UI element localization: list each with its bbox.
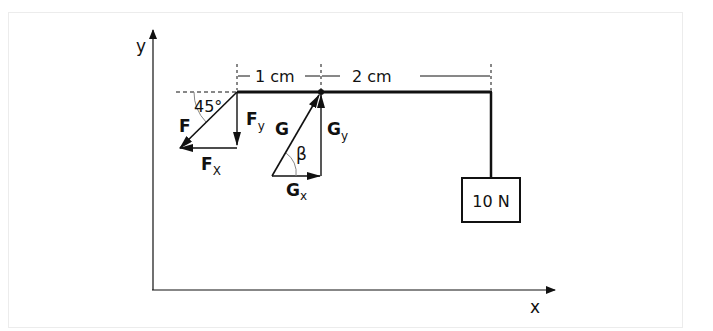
angle-beta-label: β — [296, 144, 307, 164]
dimension-2cm: 2 cm — [352, 67, 392, 86]
f-label: F — [179, 116, 191, 136]
pivot-point — [318, 89, 324, 95]
load-label: 10 N — [472, 192, 509, 211]
gx-label: Gx — [286, 180, 307, 203]
g-label: G — [275, 119, 289, 139]
force-f: 45° F Fy FX — [176, 92, 265, 178]
fx-label: FX — [201, 154, 221, 178]
force-g: β G Gy Gx — [272, 95, 348, 203]
y-axis-label: y — [136, 36, 146, 56]
gy-label: Gy — [327, 119, 348, 143]
angle-beta-arc — [286, 153, 296, 176]
angle-45-label: 45° — [194, 97, 222, 116]
lever-diagram: y x 1 cm 2 cm 10 N 45° F Fy FX — [0, 0, 713, 331]
fy-label: Fy — [246, 109, 265, 133]
dimension-1cm: 1 cm — [255, 67, 295, 86]
x-axis-label: x — [530, 297, 540, 317]
